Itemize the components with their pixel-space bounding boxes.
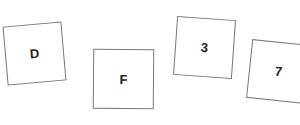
card-7[interactable]: 7 bbox=[246, 39, 300, 104]
card-label: F bbox=[119, 71, 127, 86]
card-3[interactable]: 3 bbox=[173, 16, 236, 79]
card-f[interactable]: F bbox=[93, 49, 155, 110]
card-label: D bbox=[29, 46, 40, 62]
card-d[interactable]: D bbox=[3, 22, 67, 86]
card-label: 7 bbox=[274, 64, 283, 80]
card-label: 3 bbox=[200, 40, 208, 55]
